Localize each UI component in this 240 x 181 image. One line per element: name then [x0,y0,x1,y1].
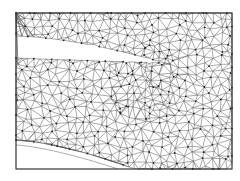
mesh-edge [128,35,136,40]
mesh-edge [90,110,95,115]
mesh-edge [226,19,227,27]
mesh-edge [77,89,82,93]
mesh-edge [145,34,150,40]
mesh-edge [107,127,118,131]
mesh-edge [197,27,204,30]
mesh-edge [187,30,188,35]
mesh-edge [31,109,44,118]
mesh-node [216,115,218,117]
mesh-node [212,124,214,126]
mesh-edge [135,55,141,57]
mesh-edge [202,109,212,116]
mesh-node [56,123,58,125]
mesh-edge [93,61,95,64]
mesh-edge [141,105,145,109]
mesh-edge [43,133,48,138]
mesh-edge [48,63,52,70]
mesh-node [188,121,190,123]
mesh-edge [111,155,112,161]
mesh-node [76,132,78,134]
mesh-node [167,136,169,138]
mesh-edge [204,57,213,59]
mesh-edge [93,13,98,22]
mesh-node [142,140,144,142]
mesh-node [127,162,129,164]
mesh-edge [76,145,77,151]
mesh-edge [146,162,153,163]
mesh-edge [25,13,30,18]
mesh-edge [117,161,118,163]
mesh-edge [132,13,137,23]
mesh-edge [164,64,171,65]
mesh-edge [42,106,45,118]
mesh-node [72,29,74,31]
mesh-edge [82,33,85,43]
mesh-edge [118,33,120,45]
mesh-edge [77,117,85,118]
mesh-edge [129,167,134,169]
mesh-edge [35,132,43,133]
mesh-edge [155,44,160,47]
mesh-edge [212,137,214,145]
mesh-node [208,92,210,94]
mesh-node [98,30,100,32]
mesh-node [151,24,153,26]
mesh-edge [160,147,162,156]
mesh-edge [32,125,35,132]
mesh-node [149,39,151,41]
mesh-edge [205,29,210,38]
mesh-node [139,62,141,64]
mesh-edge [134,87,138,94]
mesh-edge [202,77,211,78]
mesh-edge [27,67,35,68]
mesh-edge [23,95,34,100]
mesh-edge [83,138,85,147]
mesh-edge [171,82,180,88]
mesh-edge [133,132,136,140]
mesh-edge [153,156,160,162]
mesh-edge [167,29,177,34]
mesh-edge [48,70,51,82]
mesh-edge [202,71,204,79]
mesh-edge [68,123,70,133]
mesh-edge [155,104,160,110]
mesh-edge [167,115,175,116]
mesh-edge [117,51,123,52]
mesh-edge [228,45,229,51]
mesh-edge [24,121,32,125]
mesh-node [47,69,49,71]
mesh-edge [137,23,145,30]
mesh-edge [105,159,111,161]
mesh-edge [120,35,128,45]
mesh-node [126,62,128,64]
mesh-edge [133,86,139,87]
mesh-edge [204,152,214,153]
mesh-edge [195,125,201,127]
mesh-edge [16,131,22,136]
mesh-edge [152,71,159,74]
mesh-node [104,158,106,160]
mesh-edge [43,13,49,21]
mesh-node [107,143,109,145]
mesh-edge [149,132,153,141]
mesh-edge [204,87,208,93]
mesh-edge [145,95,152,98]
mesh-edge [121,138,124,147]
mesh-edge [185,131,189,140]
mesh-node [101,88,103,90]
mesh-edge [205,13,206,23]
mesh-edge [212,145,214,152]
mesh-edge [187,84,194,90]
mesh-edge [41,85,48,91]
mesh-edge [56,74,60,82]
mesh-edge [50,111,61,115]
mesh-edge [161,95,169,96]
mesh-edge [116,87,122,94]
mesh-node [69,148,71,150]
mesh-edge [160,110,167,114]
mesh-edge [204,57,205,63]
mesh-edge [212,48,222,52]
mesh-edge [226,159,227,169]
mesh-edge [149,64,152,67]
mesh-edge [116,93,128,94]
